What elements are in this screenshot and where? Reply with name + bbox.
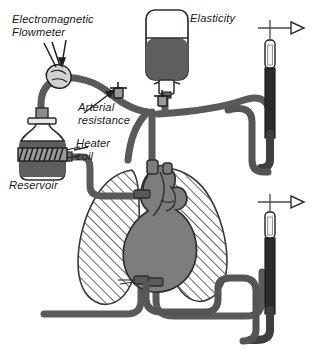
reservoir-bottle: [20, 108, 72, 180]
arterial-manometer: [258, 20, 304, 138]
perfusion-circuit-diagram: [0, 0, 316, 350]
arterial-line-tubing: [228, 109, 268, 173]
flowmeter-leader-arrows: [44, 40, 66, 67]
label-elasticity: Elasticity: [190, 12, 235, 25]
elasticity-chamber: [146, 10, 188, 98]
label-heater-coil: Heater coil: [76, 137, 110, 162]
label-arterial-resistance: Arterial resistance: [78, 101, 130, 126]
electromagnetic-flowmeter: [46, 65, 71, 89]
venous-manometer: [258, 194, 304, 314]
label-reservoir: Reservoir: [9, 179, 58, 192]
arrow-right-icon: [291, 196, 304, 208]
label-electromagnetic-flowmeter: Electromagnetic Flowmeter: [12, 13, 94, 38]
arrow-right-icon: [291, 22, 304, 34]
arterial-manometer-ubend: [261, 134, 270, 168]
figure-canvas: Electromagnetic Flowmeter Elasticity Art…: [0, 0, 316, 350]
